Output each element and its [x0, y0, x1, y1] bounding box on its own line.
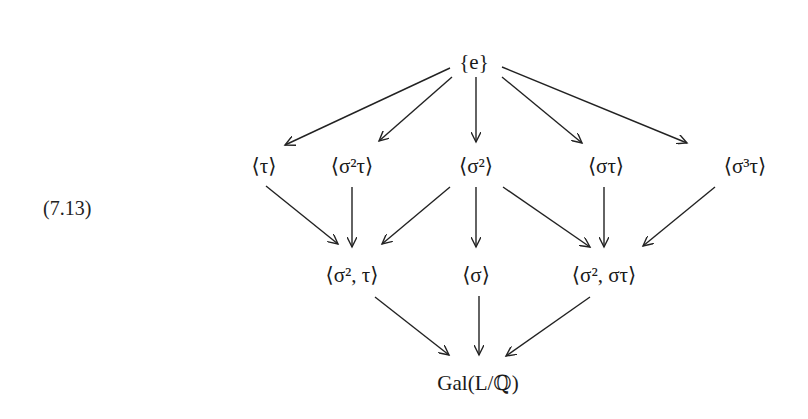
node-sigma: ⟨σ⟩: [462, 263, 490, 288]
node-sigma3-tau: ⟨σ³τ⟩: [724, 154, 766, 179]
node-sigma2: ⟨σ²⟩: [459, 154, 493, 179]
arrow-e-s3tau: [502, 67, 687, 143]
node-galois-group: Gal(L/ℚ): [437, 371, 518, 396]
arrow-s2_stau-gal: [506, 297, 590, 356]
subgroup-lattice-diagram: (7.13) {e} ⟨τ⟩ ⟨σ²τ⟩ ⟨σ²⟩ ⟨στ⟩ ⟨σ³τ⟩ ⟨σ²…: [0, 0, 808, 419]
arrow-s3tau-s2_stau: [643, 187, 715, 246]
node-trivial-group: {e}: [459, 50, 488, 75]
node-sigma-tau: ⟨στ⟩: [588, 154, 624, 179]
arrows-layer: [0, 0, 808, 419]
node-sigma2-tau: ⟨σ²τ⟩: [331, 154, 373, 179]
arrow-e-tau: [285, 68, 450, 145]
arrow-e-stau: [502, 77, 582, 143]
node-sigma2-comma-tau: ⟨σ², τ⟩: [326, 263, 379, 288]
node-sigma2-comma-sigma-tau: ⟨σ², στ⟩: [572, 263, 636, 288]
equation-number: (7.13): [43, 197, 91, 220]
arrow-s2_tau-gal: [375, 297, 449, 355]
arrow-s2-s2_stau: [503, 187, 590, 247]
arrow-e-s2tau: [379, 77, 452, 141]
arrow-tau-s2tau-join: [266, 186, 338, 244]
arrow-s2-s2_tau: [382, 187, 450, 244]
node-tau: ⟨τ⟩: [252, 154, 277, 179]
